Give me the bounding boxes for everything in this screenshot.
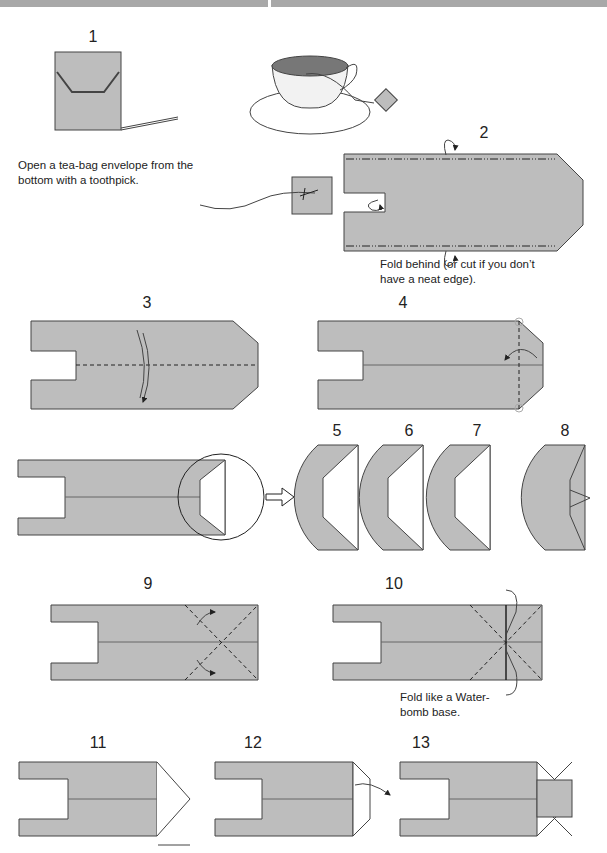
tea-cup-illustration xyxy=(250,56,397,134)
step-number: 1 xyxy=(89,28,98,46)
step-number: 5 xyxy=(333,422,342,440)
step-number: 12 xyxy=(244,734,262,752)
step10-strip xyxy=(333,590,542,695)
steps5-8-row xyxy=(18,445,590,550)
step3-strip xyxy=(31,321,258,409)
step2-caption: Fold behind (or cut if you don’t have a … xyxy=(380,257,535,287)
step-number: 9 xyxy=(144,575,153,593)
step9-strip xyxy=(51,605,258,680)
step-number: 4 xyxy=(399,294,408,312)
step1-envelope xyxy=(55,52,178,130)
step-number: 2 xyxy=(480,124,489,142)
step2-strip xyxy=(200,140,583,266)
step11-strip xyxy=(19,762,190,845)
step4-strip xyxy=(318,318,543,412)
step-number: 6 xyxy=(405,422,414,440)
step-number: 10 xyxy=(385,575,403,593)
step-number: 8 xyxy=(561,422,570,440)
step13-strip xyxy=(400,762,572,836)
step12-strip xyxy=(215,762,390,836)
step10-caption: Fold like a Water- bomb base. xyxy=(400,690,490,720)
step1-caption: Open a tea-bag envelope from the bottom … xyxy=(18,158,193,188)
step-number: 11 xyxy=(90,734,107,752)
step-number: 13 xyxy=(412,734,430,752)
step-number: 7 xyxy=(473,422,482,440)
origami-diagram xyxy=(0,0,607,853)
step-number: 3 xyxy=(143,294,152,312)
